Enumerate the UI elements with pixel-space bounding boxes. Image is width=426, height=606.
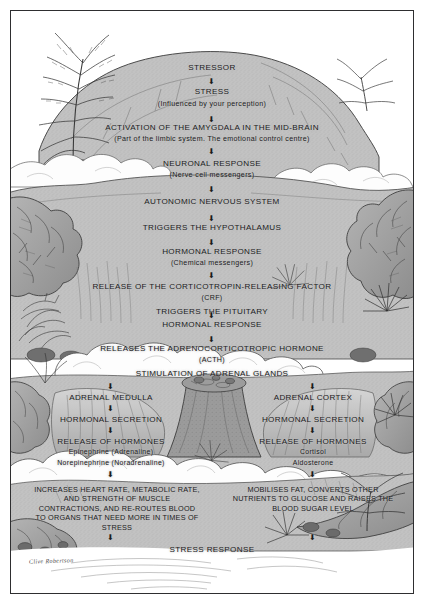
node-neuronal-note: (Nerve cell messengers)	[11, 171, 413, 179]
arrow-right-outcome-to-response: ⬇	[213, 532, 413, 542]
arrow-amygdala-to-neuronal: ⬇	[11, 146, 413, 156]
flowchart-text-layer: ⬇ ⬇ ⬇ ⬇ ⬇ ⬇ ⬇ ⬇ ⬇ STRESSOR STRESS (Influ…	[11, 11, 413, 593]
node-autonomic-nervous-system: AUTONOMIC NERVOUS SYSTEM	[11, 197, 413, 206]
arrow-hormonal1-to-crf: ⬇	[11, 270, 413, 280]
arrow-pituitary-to-hormonal2: ⬇	[11, 310, 413, 320]
arrow-hypothalamus-to-hormonal1: ⬇	[11, 237, 413, 247]
node-crf-abbr: (CRF)	[11, 294, 413, 302]
arrow-ans-to-hypothalamus: ⬇	[11, 213, 413, 223]
node-hormonal-response-1: HORMONAL RESPONSE	[11, 247, 413, 256]
arrow-right-to-outcome: ⬇	[213, 469, 413, 479]
node-stress: STRESS	[11, 87, 413, 96]
node-hormonal-response-2: HORMONAL RESPONSE	[11, 320, 413, 329]
arrow-medulla-to-secretion: ⬇	[11, 403, 211, 413]
node-stimulation-adrenal-glands: STIMULATION OF ADRENAL GLANDS	[11, 369, 413, 378]
arrow-left-outcome-to-response: ⬇	[11, 532, 211, 542]
node-left-hormonal-secretion: HORMONAL SECRETION	[11, 415, 211, 424]
node-amygdala-note: (Part of the limbic system. The emotiona…	[11, 135, 413, 143]
arrow-stressor-to-stress: ⬇	[11, 76, 413, 86]
arrow-right-secretion-to-release: ⬇	[213, 425, 413, 435]
illustration-root: ⬇ ⬇ ⬇ ⬇ ⬇ ⬇ ⬇ ⬇ ⬇ STRESSOR STRESS (Influ…	[0, 0, 426, 606]
node-amygdala: ACTIVATION OF THE AMYGDALA IN THE MID-BR…	[11, 123, 413, 132]
node-stress-note: (Influenced by your perception)	[11, 100, 413, 108]
node-left-release-hormones: RELEASE OF HORMONES	[11, 437, 211, 446]
arrow-cortex-to-secretion: ⬇	[213, 403, 413, 413]
arrow-neuronal-to-ans: ⬇	[11, 184, 413, 194]
node-hypothalamus: TRIGGERS THE HYPOTHALAMUS	[11, 223, 413, 232]
arrow-to-adrenal-cortex: ⬇	[213, 381, 413, 391]
node-right-hormonal-secretion: HORMONAL SECRETION	[213, 415, 413, 424]
arrow-hormonal2-to-acth: ⬇	[11, 334, 413, 344]
node-acth-abbr: (ACTH)	[11, 356, 413, 364]
arrow-to-adrenal-medulla: ⬇	[11, 381, 211, 391]
node-stress-response: STRESS RESPONSE	[11, 545, 413, 554]
node-right-hormone-1: Cortisol	[213, 448, 413, 455]
arrow-left-secretion-to-release: ⬇	[11, 425, 211, 435]
node-adrenal-cortex: ADRENAL CORTEX	[213, 393, 413, 402]
node-right-release-hormones: RELEASE OF HORMONES	[213, 437, 413, 446]
outcome-right: MOBILISES FAT, CONVERTS OTHER NUTRIENTS …	[229, 485, 397, 513]
node-neuronal-response: NEURONAL RESPONSE	[11, 159, 413, 168]
node-left-hormone-1: Epinephrine (Adrenaline)	[11, 448, 211, 455]
node-right-hormone-2: Aldosterone	[213, 459, 413, 466]
node-left-hormone-2: Norepinephrine (Noradrenaline)	[11, 459, 211, 466]
node-crf: RELEASE OF THE CORTICOTROPIN-RELEASING F…	[11, 282, 413, 291]
artist-signature: Clive Robertson	[29, 556, 74, 565]
node-acth: RELEASES THE ADRENOCORTICOTROPIC HORMONE	[11, 344, 413, 353]
arrow-stress-to-amygdala: ⬇	[11, 114, 413, 124]
node-adrenal-medulla: ADRENAL MEDULLA	[11, 393, 211, 402]
node-hormonal-response-1-note: (Chemical messengers)	[11, 259, 413, 267]
node-stressor: STRESSOR	[11, 63, 413, 72]
outcome-left: INCREASES HEART RATE, METABOLIC RATE, AN…	[33, 485, 201, 532]
arrow-left-to-outcome: ⬇	[11, 469, 211, 479]
